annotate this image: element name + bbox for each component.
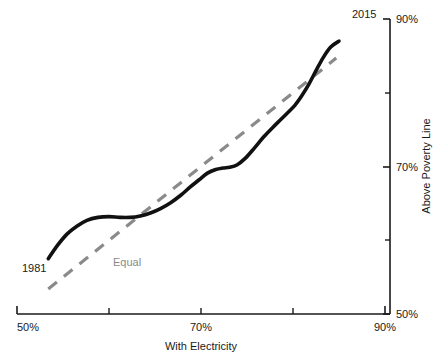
y-axis-title: Above Poverty Line <box>420 118 432 213</box>
equal-line-label: Equal <box>113 256 141 268</box>
y-tick-label-50: 50% <box>396 308 418 320</box>
y-tick-label-70: 70% <box>396 161 418 173</box>
start-year-label: 1981 <box>22 262 46 274</box>
x-axis-title: With Electricity <box>165 340 238 352</box>
trajectory-line <box>48 41 339 259</box>
x-tick-label-90: 90% <box>374 321 396 333</box>
scatter-trajectory-chart: 50% 70% 90% 90% 70% 50% With Electricity… <box>0 0 445 356</box>
chart-container: 50% 70% 90% 90% 70% 50% With Electricity… <box>0 0 445 356</box>
end-year-label: 2015 <box>352 8 376 20</box>
x-tick-label-70: 70% <box>190 321 212 333</box>
x-tick-label-50: 50% <box>17 321 39 333</box>
equal-reference-line <box>48 58 336 289</box>
y-tick-label-90: 90% <box>396 13 418 25</box>
